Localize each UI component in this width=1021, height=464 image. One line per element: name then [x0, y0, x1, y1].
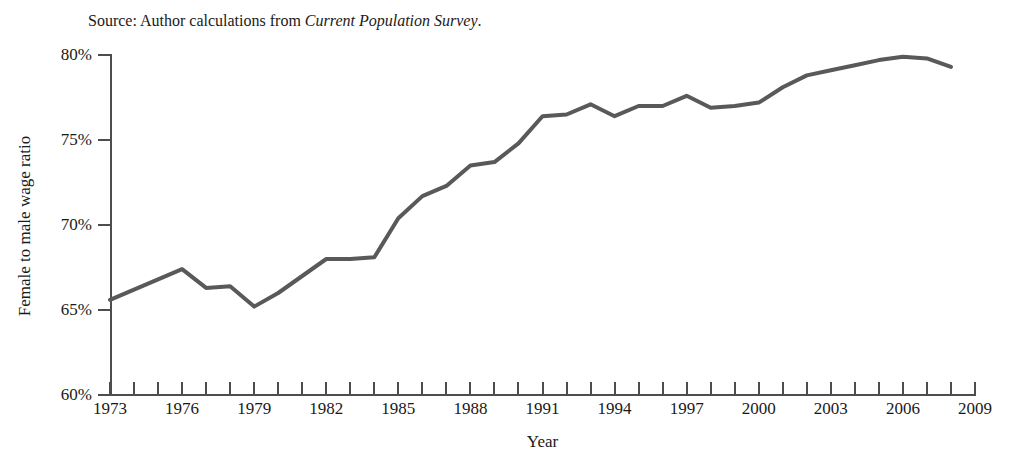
x-tick-2005	[878, 382, 880, 396]
x-tick-1986	[421, 382, 423, 396]
x-tick-1975	[157, 382, 159, 396]
x-tick-2002	[806, 382, 808, 396]
wage-ratio-line	[110, 57, 951, 307]
y-tick-label-65%: 65%	[36, 301, 92, 318]
x-tick-label-1973: 1973	[70, 400, 150, 417]
x-tick-1990	[517, 382, 519, 396]
x-tick-1993	[590, 382, 592, 396]
x-tick-1997	[686, 382, 688, 396]
x-tick-2004	[854, 382, 856, 396]
x-tick-label-1979: 1979	[214, 400, 294, 417]
source-note: Source: Author calculations from Current…	[88, 12, 482, 30]
x-tick-label-2006: 2006	[863, 400, 943, 417]
y-tick-label-75%: 75%	[36, 131, 92, 148]
x-tick-1977	[205, 382, 207, 396]
y-tick-80%	[98, 54, 112, 56]
chart-page: Source: Author calculations from Current…	[0, 0, 1021, 464]
x-tick-label-1976: 1976	[142, 400, 222, 417]
x-tick-label-1982: 1982	[286, 400, 366, 417]
x-tick-label-2009: 2009	[935, 400, 1015, 417]
y-tick-65%	[98, 309, 112, 311]
x-tick-1987	[445, 382, 447, 396]
x-tick-1973	[109, 382, 111, 396]
source-note-prefix: Source: Author calculations from	[88, 12, 305, 29]
y-tick-label-80%: 80%	[36, 46, 92, 63]
x-tick-1994	[614, 382, 616, 396]
x-tick-1985	[397, 382, 399, 396]
x-tick-label-1985: 1985	[358, 400, 438, 417]
x-tick-1983	[349, 382, 351, 396]
x-tick-1982	[325, 382, 327, 396]
x-tick-1980	[277, 382, 279, 396]
x-tick-label-2003: 2003	[791, 400, 871, 417]
x-tick-1999	[734, 382, 736, 396]
x-tick-label-1991: 1991	[503, 400, 583, 417]
x-tick-1978	[229, 382, 231, 396]
x-tick-2006	[902, 382, 904, 396]
x-tick-label-1997: 1997	[647, 400, 727, 417]
x-tick-2000	[758, 382, 760, 396]
x-tick-1991	[542, 382, 544, 396]
x-tick-label-2000: 2000	[719, 400, 799, 417]
x-tick-1996	[662, 382, 664, 396]
x-tick-1992	[566, 382, 568, 396]
x-tick-1976	[181, 382, 183, 396]
x-tick-label-1988: 1988	[430, 400, 510, 417]
x-tick-2001	[782, 382, 784, 396]
x-tick-1995	[638, 382, 640, 396]
x-tick-1984	[373, 382, 375, 396]
x-tick-2009	[974, 382, 976, 396]
x-tick-1998	[710, 382, 712, 396]
x-tick-1974	[133, 382, 135, 396]
y-tick-75%	[98, 139, 112, 141]
x-tick-label-1994: 1994	[575, 400, 655, 417]
x-axis-title: Year	[110, 432, 975, 452]
y-tick-label-70%: 70%	[36, 216, 92, 233]
y-tick-70%	[98, 224, 112, 226]
x-tick-1979	[253, 382, 255, 396]
x-tick-2007	[926, 382, 928, 396]
x-tick-2003	[830, 382, 832, 396]
x-tick-1989	[493, 382, 495, 396]
x-tick-1988	[469, 382, 471, 396]
source-note-publication: Current Population Survey	[305, 12, 478, 29]
y-axis-title: Female to male wage ratio	[12, 56, 38, 396]
x-tick-1981	[301, 382, 303, 396]
x-tick-2008	[950, 382, 952, 396]
source-note-suffix: .	[478, 12, 482, 29]
